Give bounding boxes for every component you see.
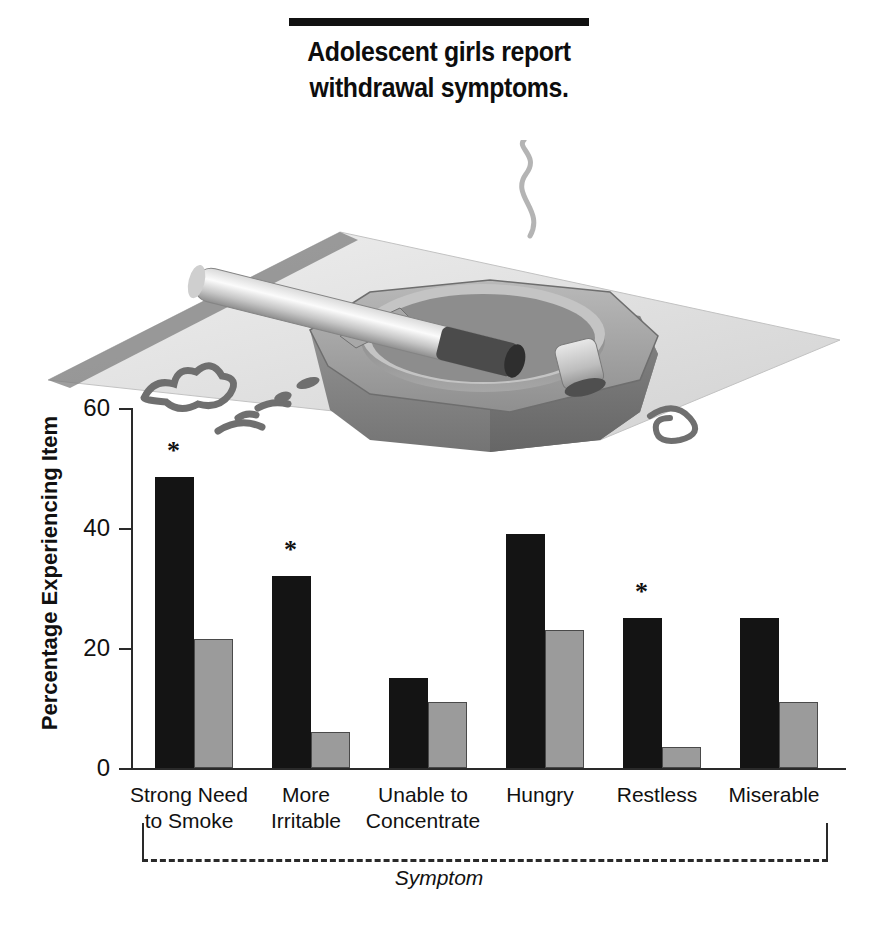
x-axis-label: Symptom	[0, 866, 878, 890]
category-label-hungry: Hungry	[475, 782, 605, 808]
significance-star-strong-need: *	[167, 438, 180, 464]
x-axis-line	[131, 768, 846, 770]
category-label-line: More	[282, 783, 330, 806]
bar-hungry-dark	[506, 534, 545, 768]
category-label-restless: Restless	[592, 782, 722, 808]
y-tick-40	[119, 528, 131, 530]
bar-strong-need-dark	[155, 477, 194, 768]
bar-hungry-light	[545, 630, 584, 768]
y-tick-label-0: 0	[50, 754, 110, 782]
significance-star-restless: *	[635, 579, 648, 605]
plot-area: * * *	[133, 408, 846, 768]
bracket-right-tick	[826, 823, 828, 861]
category-label-line: Unable to	[378, 783, 468, 806]
significance-star-more-irritable: *	[284, 537, 297, 563]
category-label-line: Restless	[617, 783, 698, 806]
bar-unable-concentrate-light	[428, 702, 467, 768]
bar-restless-dark	[623, 618, 662, 768]
y-tick-label-40: 40	[50, 514, 110, 542]
bar-more-irritable-dark	[272, 576, 311, 768]
bar-chart: Percentage Experiencing Item 60 40 20 0 …	[0, 0, 878, 926]
bar-strong-need-light	[194, 639, 233, 768]
bar-miserable-dark	[740, 618, 779, 768]
category-label-line: Miserable	[728, 783, 819, 806]
category-label-line: Hungry	[506, 783, 574, 806]
bar-unable-concentrate-dark	[389, 678, 428, 768]
category-label-line: Irritable	[271, 809, 341, 832]
category-label-unable-concentrate: Unable to Concentrate	[358, 782, 488, 834]
bracket-dashed-line	[142, 859, 828, 862]
category-label-line: Concentrate	[366, 809, 480, 832]
y-tick-label-60: 60	[50, 394, 110, 422]
category-label-more-irritable: More Irritable	[241, 782, 371, 834]
y-tick-label-20: 20	[50, 634, 110, 662]
bracket-left-tick	[142, 823, 144, 861]
bar-miserable-light	[779, 702, 818, 768]
y-tick-20	[119, 648, 131, 650]
category-label-line: Strong Need	[130, 783, 248, 806]
category-label-miserable: Miserable	[709, 782, 839, 808]
y-tick-0	[119, 768, 131, 770]
y-tick-60	[119, 408, 131, 410]
bar-restless-light	[662, 747, 701, 768]
y-axis-label: Percentage Experiencing Item	[37, 393, 63, 753]
category-label-line: to Smoke	[145, 809, 234, 832]
bar-more-irritable-light	[311, 732, 350, 768]
